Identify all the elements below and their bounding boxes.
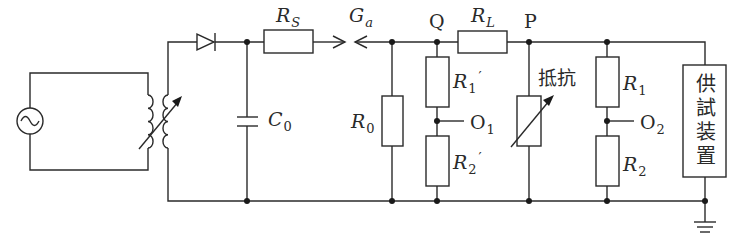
resistor-r2-prime-icon: [426, 136, 449, 186]
label-rs-main: R: [276, 4, 290, 26]
resistor-r1-prime-icon: [426, 57, 449, 107]
label-r2-sub: 2: [638, 164, 646, 179]
label-o2-main: O: [640, 111, 656, 133]
label-r2-prime: R2′: [453, 153, 482, 172]
label-r1-main: R: [623, 72, 637, 94]
label-o2: O2: [640, 113, 665, 132]
label-ga-main: G: [349, 4, 364, 26]
circuit-diagram: RS Ga C0 R0 Q RL P R1′ O1 R2′ 抵抗 R1 O2 R…: [0, 0, 736, 242]
label-resistor: 抵抗: [538, 69, 576, 88]
label-rl-main: R: [471, 4, 485, 26]
label-r0-main: R: [351, 110, 365, 132]
label-test-device: 供試装置: [694, 73, 714, 169]
label-r2p-sub: 2: [468, 162, 476, 177]
label-rs: RS: [276, 6, 300, 25]
label-o1-main: O: [470, 111, 486, 133]
label-r1p-main: R: [453, 70, 467, 92]
label-r2p-main: R: [453, 151, 467, 173]
label-node-p: P: [524, 12, 537, 31]
resistor-r1-icon: [596, 57, 619, 107]
label-node-q: Q: [429, 12, 445, 31]
label-r1p-prime: ′: [479, 69, 482, 85]
variable-arrow-icon: [139, 96, 182, 149]
primary-coil-icon: [148, 95, 153, 148]
resistor-r2-icon: [596, 136, 619, 186]
label-rl: RL: [471, 6, 495, 25]
label-r0-sub: 0: [366, 121, 374, 136]
label-r2: R2: [623, 155, 647, 174]
primary-circuit: [17, 73, 153, 170]
label-r1p-sub: 1: [468, 81, 476, 96]
label-ga-sub: a: [365, 15, 373, 30]
secondary-coil-icon: [163, 42, 247, 201]
label-c0-sub: 0: [284, 119, 292, 134]
resistor-rl-icon: [458, 31, 507, 53]
ac-source-icon: [17, 108, 43, 134]
ground-icon: [694, 222, 716, 232]
diode-icon: [197, 33, 264, 51]
label-ga: Ga: [349, 6, 373, 25]
resistor-rs-icon: [264, 30, 313, 53]
label-r2-main: R: [623, 153, 637, 175]
label-o1-sub: 1: [487, 122, 495, 137]
label-rs-sub: S: [291, 15, 300, 30]
label-r1: R1: [623, 74, 647, 93]
label-o2-sub: 2: [657, 122, 665, 137]
resistor-r0-icon: [382, 96, 403, 146]
label-r2p-prime: ′: [479, 150, 482, 166]
label-c0-main: C: [268, 108, 283, 130]
label-r1-sub: 1: [638, 83, 646, 98]
label-o1: O1: [470, 113, 495, 132]
label-c0: C0: [268, 110, 292, 129]
capacitor-c0-icon: [237, 42, 258, 201]
label-rl-sub: L: [486, 15, 495, 30]
label-r0: R0: [351, 112, 375, 131]
label-r1-prime: R1′: [453, 72, 482, 91]
variable-resistor-icon: [517, 96, 541, 146]
